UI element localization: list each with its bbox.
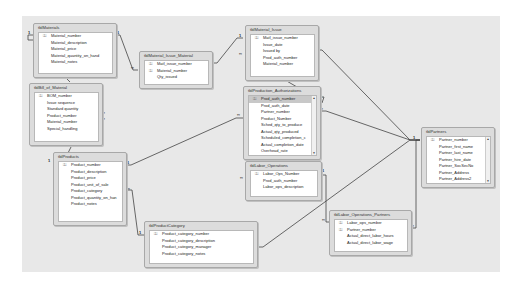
scroll-down-icon[interactable]: ▼ — [486, 179, 490, 183]
cardinality-many: ∞ — [131, 65, 134, 70]
table-tblMaterial_Issue[interactable]: tblMaterial_Issue ⚿Matl_issue_number Iss… — [245, 25, 319, 81]
field-list[interactable]: ⚿Prod_auth_number Prod_auth_date Partner… — [248, 95, 317, 156]
field-list[interactable]: ⚿Matl_issue_number ⚿Material_number Qty_… — [144, 60, 209, 85]
field-name: Partner_Address — [439, 170, 469, 175]
table-tblBill_of_Material[interactable]: tblBill_of_Material ⚿BOM_number Issue se… — [29, 83, 103, 146]
field-name: Standard quantity — [47, 106, 78, 111]
relationships-canvas: 1 1 ∞ ∞ 1 ∞ ∞ ∞ ∞ ∞ 1 ∞ 1 1 ∞ 1 ∞ 1 ∞ ∞ … — [0, 0, 515, 282]
field-name: Sched_qty_to_produce — [261, 122, 302, 127]
field-name: Actual_qty_produced — [261, 129, 299, 134]
rel-products-prodauth — [125, 118, 243, 165]
table-tblProducts[interactable]: tblProducts ⚿Product_number Product_desc… — [53, 152, 127, 226]
field-list[interactable]: ⚿Partner_number Partner_first_name Partn… — [426, 136, 491, 184]
table-title: tblLabor_Operations — [246, 162, 321, 169]
field-name: Product_unit_of_sale — [71, 182, 109, 187]
field-name: Actual_direct_labor_wage — [347, 240, 393, 245]
cardinality-one: 1 — [413, 135, 415, 140]
table-tblMaterials[interactable]: tblMaterials ⚿Material_number Material_d… — [33, 23, 117, 78]
field-row[interactable]: Special_handling — [35, 126, 98, 133]
field-row[interactable]: Labor_ops_description — [251, 184, 317, 191]
field-name: Partner_number — [347, 227, 376, 232]
scroll-up-icon[interactable]: ▲ — [486, 137, 490, 141]
scroll-down-icon[interactable]: ▼ — [312, 151, 316, 155]
table-tblProduction_Authorizations[interactable]: tblProduction_Authorizations ⚿Prod_auth_… — [243, 86, 321, 160]
table-tblLabor_Operations_Partners[interactable]: tblLabor_Operations_Partners ⚿Labor_ops_… — [329, 210, 412, 256]
field-name: Prod_auth_number — [263, 178, 297, 183]
field-list[interactable]: ⚿Product_number Product_description Prod… — [58, 161, 123, 222]
field-name: Product_category_notes — [162, 251, 205, 256]
field-name: Material_number — [47, 119, 77, 124]
field-name: Prod_auth_number — [261, 96, 295, 101]
field-row[interactable]: Qty_issued — [145, 74, 208, 81]
cardinality-many: ∞ — [322, 217, 325, 222]
field-list[interactable]: ⚿BOM_number Issue sequence Standard quan… — [34, 92, 99, 142]
field-name: Matl_issue_number — [157, 61, 192, 66]
field-row[interactable]: Material_notes — [39, 59, 112, 66]
field-name: Product_number — [71, 162, 101, 167]
field-name: Issue_date — [263, 42, 283, 47]
table-title: tblLabor_Operations_Partners — [330, 211, 411, 218]
field-name: Material_notes — [51, 59, 77, 64]
field-name: Partner_hire_date — [439, 157, 471, 162]
field-name: Labor_Ops_Number — [263, 171, 299, 176]
field-row[interactable]: Material_number — [251, 61, 314, 68]
table-title: tblProducts — [54, 153, 126, 160]
field-name: Product_category — [71, 188, 102, 193]
cardinality-one: 1 — [322, 168, 324, 173]
field-name: Product_price — [71, 175, 96, 180]
field-row[interactable]: Overhead_rate — [249, 148, 316, 155]
cardinality-many: ∞ — [127, 186, 130, 191]
field-row[interactable]: Product_notes — [59, 201, 122, 208]
field-name: Actual_direct_labor_hours — [347, 233, 393, 238]
rel-materials-issue-material — [115, 35, 138, 70]
table-title: tblMaterial_Issue_Material — [140, 52, 212, 59]
cardinality-many: ∞ — [239, 51, 242, 56]
table-title: tblBill_of_Material — [30, 84, 102, 91]
field-name: Product_category_number — [162, 231, 209, 236]
field-list[interactable]: ⚿Matl_issue_number Issue_date Issued by … — [250, 34, 315, 77]
table-tblPartners[interactable]: tblPartners ⚿Partner_number Partner_firs… — [421, 127, 495, 188]
table-tblProductCategory[interactable]: tblProductCategory ⚿Product_category_num… — [144, 221, 258, 268]
field-name: Matl_issue_number — [263, 35, 298, 40]
vertical-scrollbar[interactable]: ▲ ▼ — [311, 96, 316, 155]
field-name: Product_notes — [71, 201, 97, 206]
vertical-scrollbar[interactable]: ▲ ▼ — [485, 137, 490, 183]
table-tblMaterial_Issue_Material[interactable]: tblMaterial_Issue_Material ⚿Matl_issue_n… — [139, 51, 213, 89]
field-name: Special_handling — [47, 126, 77, 131]
cardinality-one: 1 — [48, 158, 50, 163]
field-name: Partner_Address2 — [439, 176, 471, 181]
field-name: Labor_ops_number — [347, 220, 382, 225]
table-tblLabor_Operations[interactable]: tblLabor_Operations ⚿Labor_Ops_Number Pr… — [245, 161, 322, 201]
cardinality-one: 1 — [127, 160, 129, 165]
field-name: Material_number — [157, 68, 187, 73]
cardinality-one: 1 — [139, 230, 141, 235]
field-name: Material_number — [263, 61, 293, 66]
field-row[interactable]: Product_category_notes — [150, 251, 253, 258]
field-name: Prod_auth_number — [263, 55, 297, 60]
scroll-up-icon[interactable]: ▲ — [312, 96, 316, 100]
table-title: tblPartners — [422, 128, 494, 135]
cardinality-one: 1 — [28, 30, 30, 35]
table-title: tblProductCategory — [145, 222, 257, 229]
cardinality-one: 1 — [239, 33, 241, 38]
field-row[interactable]: Actual_direct_labor_wage — [335, 240, 407, 247]
field-name: Material_quantity_on_hand — [51, 53, 99, 58]
field-name: Qty_issued — [157, 74, 177, 79]
rel-products-category — [125, 190, 144, 235]
field-list[interactable]: ⚿Material_number Material_description Ma… — [38, 32, 113, 74]
table-title: tblMaterials — [34, 24, 116, 31]
field-row[interactable]: Partner_Address2 — [427, 176, 490, 183]
cardinality-one: 1 — [117, 30, 119, 35]
field-name: Partner_last_name — [439, 150, 473, 155]
field-name: Product_category_manager — [162, 244, 211, 249]
field-name: Scheduled_completion_c — [261, 135, 306, 140]
field-name: Material_price — [51, 46, 76, 51]
field-name: Labor_ops_description — [263, 184, 303, 189]
field-list[interactable]: ⚿Labor_ops_number ⚿Partner_number Actual… — [334, 219, 408, 252]
field-name: Material_number — [51, 33, 81, 38]
table-title: tblProduction_Authorizations — [244, 87, 320, 94]
field-list[interactable]: ⚿Labor_Ops_Number Prod_auth_number Labor… — [250, 170, 318, 197]
field-name: Overhead_rate — [261, 148, 288, 153]
field-name: Product_quantity_on_han — [71, 195, 117, 200]
field-list[interactable]: ⚿Product_category_number Product_categor… — [149, 230, 254, 264]
